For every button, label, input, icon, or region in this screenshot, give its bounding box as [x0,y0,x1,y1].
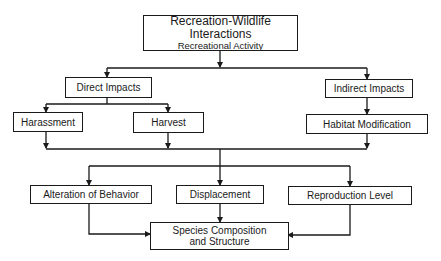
harassment-box: Harassment [13,112,83,132]
displacement-label: Displacement [190,189,251,200]
direct-impacts-label: Direct Impacts [77,82,141,93]
root-box: Recreation-Wildlife Interactions Recreat… [143,15,298,51]
reproduction-level-box: Reproduction Level [288,186,412,205]
species-line1: Species Composition [173,225,267,236]
reproduction-label: Reproduction Level [307,190,393,201]
alteration-label: Alteration of Behavior [43,189,139,200]
root-title-line1: Recreation-Wildlife [170,15,271,28]
species-line2: and Structure [189,236,249,247]
harvest-box: Harvest [133,112,204,133]
species-composition-box: Species Composition and Structure [150,222,289,250]
habitat-modification-label: Habitat Modification [323,119,411,130]
root-subtitle: Recreational Activity [178,41,264,51]
harassment-label: Harassment [21,117,75,128]
alteration-of-behavior-box: Alteration of Behavior [30,185,152,204]
indirect-impacts-box: Indirect Impacts [325,79,413,98]
root-title-line2: Interactions [189,28,251,41]
direct-impacts-box: Direct Impacts [65,77,152,98]
harvest-label: Harvest [151,117,185,128]
habitat-modification-box: Habitat Modification [306,114,428,134]
indirect-impacts-label: Indirect Impacts [334,83,405,94]
displacement-box: Displacement [176,185,264,204]
